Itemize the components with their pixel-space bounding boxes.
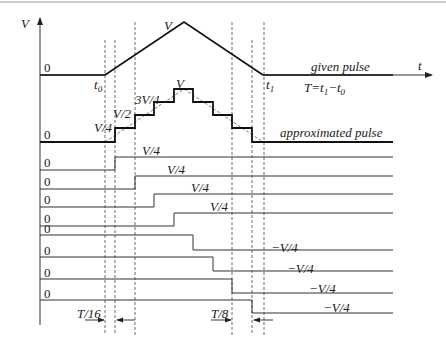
given-peak-label: V (164, 18, 174, 33)
step-label-3v4: 3V/4 (134, 92, 160, 107)
svg-text:V/4: V/4 (210, 199, 229, 214)
step-row-7 (40, 279, 393, 293)
svg-text:V/4: V/4 (191, 180, 210, 195)
given-zero-label: 0 (44, 60, 51, 75)
component-steps (40, 157, 393, 313)
step-row-5 (40, 235, 393, 250)
svg-text:0: 0 (44, 192, 51, 207)
step-row-2 (40, 176, 393, 189)
x-axis-label: t (418, 58, 422, 73)
dashed-guides (105, 22, 264, 335)
given-pulse-label: given pulse (311, 59, 370, 74)
step-row-4 (40, 213, 393, 226)
t1-label: t1 (266, 77, 274, 94)
step-row-1 (40, 157, 393, 170)
interval-annotations: T/16 T/8 (77, 306, 273, 321)
svg-text:0: 0 (44, 286, 51, 301)
t8-label: T/8 (211, 306, 229, 321)
step-label-v2: V/2 (113, 106, 132, 121)
svg-text:V/4: V/4 (167, 162, 186, 177)
approximated-pulse-label: approximated pulse (280, 125, 383, 140)
component-labels: 0 0 0 0 0 0 0 0 V/4 V/4 V/4 V/4 −V/4 −V/… (44, 143, 350, 315)
svg-text:0: 0 (44, 174, 51, 189)
y-axis-label: V (21, 16, 31, 31)
svg-text:0: 0 (44, 243, 51, 258)
svg-text:0: 0 (44, 155, 51, 170)
pulse-approximation-diagram: V t 0 V t0 t1 given pulse T=t1−t0 0 V/4 … (0, 0, 446, 344)
svg-text:V/4: V/4 (142, 143, 161, 158)
svg-text:−V/4: −V/4 (271, 240, 298, 255)
svg-text:0: 0 (44, 221, 51, 236)
step-label-v4: V/4 (94, 120, 113, 135)
approx-zero-label: 0 (44, 127, 51, 142)
step-row-6 (40, 257, 393, 271)
svg-text:0: 0 (44, 265, 51, 280)
svg-text:−V/4: −V/4 (323, 300, 350, 315)
t0-label: t0 (94, 77, 103, 94)
svg-text:−V/4: −V/4 (309, 281, 336, 296)
svg-text:−V/4: −V/4 (287, 261, 314, 276)
period-label: T=t1−t0 (304, 80, 346, 97)
t16-label: T/16 (77, 306, 101, 321)
given-pulse: t 0 V t0 t1 given pulse T=t1−t0 (40, 18, 432, 97)
